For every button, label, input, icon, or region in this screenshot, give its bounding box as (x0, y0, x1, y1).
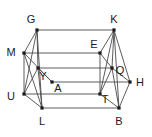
vertex-label-e: E (90, 39, 97, 50)
vertex-dot-e (98, 51, 101, 54)
figure-canvas (0, 0, 152, 137)
vertex-label-g: G (27, 14, 36, 25)
vertex-dot-m (22, 51, 25, 54)
vertex-label-k: K (110, 14, 117, 25)
vertex-dot-k (112, 28, 115, 31)
geometry-figure: GKMEYQHAUTLB (0, 0, 152, 137)
edge-g-u (24, 30, 37, 94)
vertex-label-l: L (39, 116, 45, 127)
vertex-dot-l (40, 106, 43, 109)
edge-q-t (100, 68, 112, 94)
vertex-label-u: U (7, 91, 15, 102)
vertex-label-q: Q (116, 65, 125, 76)
vertex-dot-b (117, 106, 120, 109)
vertex-dot-q (110, 66, 113, 69)
vertex-label-b: B (115, 116, 122, 127)
vertex-dot-g (35, 28, 38, 31)
vertex-dot-u (22, 92, 25, 95)
vertex-label-h: H (136, 77, 144, 88)
vertex-label-m: M (6, 47, 15, 58)
vertex-label-a: A (54, 83, 61, 94)
vertex-dot-a (50, 80, 53, 83)
vertex-dot-h (128, 80, 131, 83)
edge-h-b (119, 82, 130, 108)
vertex-label-t: T (102, 94, 109, 105)
vertex-label-y: Y (39, 71, 46, 82)
